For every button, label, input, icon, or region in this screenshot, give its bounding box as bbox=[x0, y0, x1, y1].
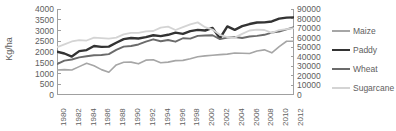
x-axis-tick-label: 1994 bbox=[164, 108, 172, 126]
y-axis-left-tick-label: 2500 bbox=[35, 37, 54, 45]
y-axis-left-tick-label: 0 bbox=[49, 91, 54, 99]
legend-label: Paddy bbox=[353, 46, 377, 55]
y-axis-title-left: Kg/ha bbox=[4, 27, 14, 71]
legend-swatch-wheat-icon bbox=[332, 68, 350, 70]
chart-legend: MaizePaddyWheatSugarcane bbox=[332, 24, 396, 100]
y-axis-right-tick-label: 40000 bbox=[297, 53, 321, 61]
y-axis-right-tick-label: 30000 bbox=[297, 62, 321, 70]
x-axis-tick-label: 1986 bbox=[104, 108, 112, 126]
legend-label: Sugarcane bbox=[353, 84, 394, 93]
y-axis-left-tick-label: 4000 bbox=[35, 5, 54, 13]
y-axis-right-tick-label: 80000 bbox=[297, 15, 321, 23]
legend-swatch-paddy-icon bbox=[332, 49, 350, 52]
y-axis-left-tick-label: 1500 bbox=[35, 59, 54, 67]
legend-item-maize[interactable]: Maize bbox=[332, 24, 376, 38]
y-axis-right-tick-label: 10000 bbox=[297, 81, 321, 89]
x-axis-tick-label: 2010 bbox=[282, 108, 290, 126]
x-axis-tick-label: 1984 bbox=[90, 108, 98, 126]
x-axis-tick-label: 2008 bbox=[267, 108, 275, 126]
x-axis-tick-label: 1996 bbox=[179, 108, 187, 126]
x-axis-tick-label: 2006 bbox=[253, 108, 261, 126]
yield-trend-chart: Kg/ha 05001000150020002500300035004000 1… bbox=[0, 0, 396, 131]
y-axis-right-tick-label: 90000 bbox=[297, 5, 321, 13]
y-axis-left-ticks: 05001000150020002500300035004000 bbox=[18, 0, 54, 131]
x-axis-tick-label: 1982 bbox=[75, 108, 83, 126]
plot-area bbox=[57, 9, 294, 95]
y-axis-right-ticks: 0100002000030000400005000060000700008000… bbox=[297, 0, 337, 131]
y-axis-right-tick-label: 70000 bbox=[297, 24, 321, 32]
legend-item-paddy[interactable]: Paddy bbox=[332, 43, 377, 57]
x-axis-tick-label: 2002 bbox=[223, 108, 231, 126]
x-axis-tick-label: 1980 bbox=[60, 108, 68, 126]
y-axis-left-tick-label: 3000 bbox=[35, 27, 54, 35]
x-axis-tick-label: 1998 bbox=[193, 108, 201, 126]
x-axis-tick-label: 1992 bbox=[149, 108, 157, 126]
y-axis-right-tick-label: 50000 bbox=[297, 43, 321, 51]
y-axis-left-tick-label: 3500 bbox=[35, 16, 54, 24]
legend-swatch-sugarcane-icon bbox=[332, 87, 350, 89]
x-axis-tick-label: 1988 bbox=[119, 108, 127, 126]
y-axis-right-tick-label: 0 bbox=[297, 91, 302, 99]
y-axis-right-tick-label: 60000 bbox=[297, 34, 321, 42]
y-axis-left-tick-label: 1000 bbox=[35, 70, 54, 78]
y-axis-right-tick-label: 20000 bbox=[297, 72, 321, 80]
legend-label: Maize bbox=[353, 27, 376, 36]
x-axis-ticks: 1980198219841986198819901992199419961998… bbox=[57, 96, 294, 131]
x-axis-tick-label: 1990 bbox=[134, 108, 142, 126]
legend-item-sugarcane[interactable]: Sugarcane bbox=[332, 81, 394, 95]
legend-label: Wheat bbox=[353, 65, 378, 74]
x-axis-tick-label: 2004 bbox=[238, 108, 246, 126]
legend-swatch-maize-icon bbox=[332, 30, 350, 32]
legend-item-wheat[interactable]: Wheat bbox=[332, 62, 378, 76]
y-axis-left-tick-label: 500 bbox=[40, 80, 54, 88]
y-axis-left-tick-label: 2000 bbox=[35, 48, 54, 56]
x-axis-tick-label: 2000 bbox=[208, 108, 216, 126]
